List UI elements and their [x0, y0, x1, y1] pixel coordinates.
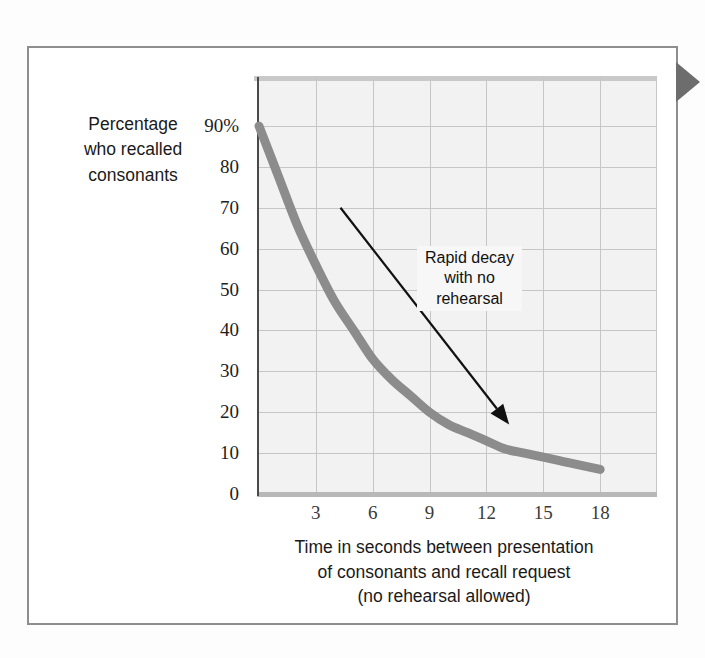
text-line: with no — [425, 268, 514, 288]
right-triangle-tab-icon — [676, 62, 700, 102]
gridline-horizontal — [259, 412, 657, 413]
x-axis-tick-label: 15 — [523, 503, 563, 522]
y-axis-line — [257, 77, 259, 496]
x-axis-tick-label: 12 — [466, 503, 506, 522]
x-axis-tick-label: 3 — [296, 503, 336, 522]
x-axis-title: Time in seconds between presentationof c… — [229, 535, 659, 609]
figure-root: 0102030405060708090% 369121518 Percentag… — [0, 0, 705, 658]
gridline-horizontal — [259, 330, 657, 331]
y-axis-tick-label: 0 — [179, 484, 239, 503]
chart-area: 0102030405060708090% 369121518 Percentag… — [29, 48, 680, 627]
y-axis-tick-label: 20 — [179, 402, 239, 421]
gridline-vertical — [600, 77, 601, 494]
gridline-horizontal — [259, 208, 657, 209]
x-axis-baseline — [257, 492, 657, 497]
gridline-vertical — [316, 77, 317, 494]
figure-frame: 0102030405060708090% 369121518 Percentag… — [27, 46, 678, 625]
text-line: Rapid decay — [425, 248, 514, 268]
gridline-horizontal — [259, 371, 657, 372]
y-axis-tick-label: 60 — [179, 239, 239, 258]
annotation-label-rapid-decay: Rapid decaywith norehearsal — [417, 246, 522, 311]
text-line: (no rehearsal allowed) — [229, 584, 659, 609]
y-axis-tick-label: 50 — [179, 280, 239, 299]
y-axis-tick-label: 10 — [179, 443, 239, 462]
x-axis-tick-label: 18 — [580, 503, 620, 522]
gridline-horizontal — [259, 126, 657, 127]
gridline-vertical — [543, 77, 544, 494]
gridline-vertical — [373, 77, 374, 494]
gridline-vertical — [656, 77, 657, 494]
text-line: Percentage — [49, 112, 217, 137]
gridline-horizontal — [259, 453, 657, 454]
x-axis-tick-label: 9 — [410, 503, 450, 522]
x-axis-tick-label: 6 — [353, 503, 393, 522]
y-axis-tick-label: 30 — [179, 361, 239, 380]
gridline-horizontal — [259, 167, 657, 168]
text-line: consonants — [49, 163, 217, 188]
y-axis-tick-label: 70 — [179, 198, 239, 217]
text-line: rehearsal — [425, 289, 514, 309]
y-axis-title: Percentagewho recalledconsonants — [49, 112, 217, 188]
text-line: of consonants and recall request — [229, 560, 659, 585]
text-line: Time in seconds between presentation — [229, 535, 659, 560]
y-axis-tick-label: 40 — [179, 320, 239, 339]
text-line: who recalled — [49, 137, 217, 162]
